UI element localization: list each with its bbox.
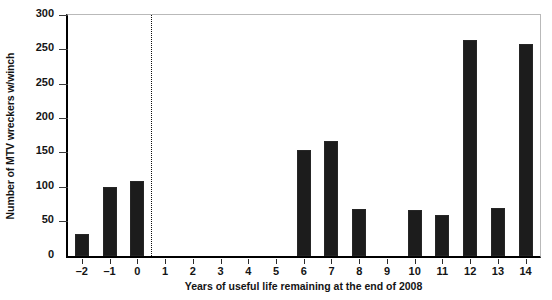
bar [463, 40, 477, 256]
bar-chart-figure: Number of MTV wreckers w/winch 300250250… [0, 0, 552, 300]
y-axis-tick-label: 250 [36, 41, 54, 53]
x-axis-tick-mark [359, 259, 360, 264]
y-axis-tick-label: 200 [36, 110, 54, 122]
y-axis-tick-mark [59, 49, 68, 50]
x-axis-tick-mark [498, 259, 499, 264]
bar [491, 208, 505, 256]
y-axis-tick-label: 250 [36, 76, 54, 88]
bars-container [68, 15, 540, 256]
bar [352, 209, 366, 256]
y-axis-tick-mark [59, 221, 68, 222]
x-axis-tick-mark [442, 259, 443, 264]
bar [408, 210, 422, 256]
x-axis-tick-mark [526, 259, 527, 264]
y-axis-tick-mark [59, 84, 68, 85]
bar [103, 187, 117, 256]
bar [75, 234, 89, 256]
y-axis-tick-mark [59, 152, 68, 153]
x-axis-tick-mark [415, 259, 416, 264]
vertical-divider-line [151, 15, 152, 256]
x-axis-tick-mark [387, 259, 388, 264]
x-axis-tick-mark [137, 259, 138, 264]
x-axis-title: Years of useful life remaining at the en… [66, 280, 541, 292]
y-axis-tick-label: 50 [42, 213, 54, 225]
y-axis-title: Number of MTV wreckers w/winch [0, 0, 20, 272]
y-axis-tick-mark [59, 118, 68, 119]
y-axis-tick-label: 150 [36, 144, 54, 156]
x-axis-tick-mark [304, 259, 305, 264]
bar [519, 44, 533, 256]
y-axis-tick-mark [59, 187, 68, 188]
x-axis-tick-label: 14 [510, 265, 542, 277]
x-axis-tick-mark [276, 259, 277, 264]
bar [435, 215, 449, 256]
bar [324, 141, 338, 256]
x-axis-tick-mark [221, 259, 222, 264]
x-axis-tick-mark [165, 259, 166, 264]
x-axis-tick-mark [248, 259, 249, 264]
x-axis-tick-mark [82, 259, 83, 264]
y-axis-tick-mark [59, 15, 68, 16]
bar [130, 181, 144, 256]
bar [297, 150, 311, 256]
x-axis-tick-mark [110, 259, 111, 264]
x-axis-tick-mark [331, 259, 332, 264]
x-axis-tick-mark [193, 259, 194, 264]
y-axis-tick-label: 300 [36, 7, 54, 19]
y-axis-tick-label: 0 [48, 248, 54, 260]
x-axis-tick-mark [470, 259, 471, 264]
y-axis-tick-label: 100 [36, 179, 54, 191]
y-axis-title-text: Number of MTV wreckers w/winch [4, 53, 16, 220]
plot-area: 300250250200150100500–2–1012345678910111… [66, 14, 541, 258]
